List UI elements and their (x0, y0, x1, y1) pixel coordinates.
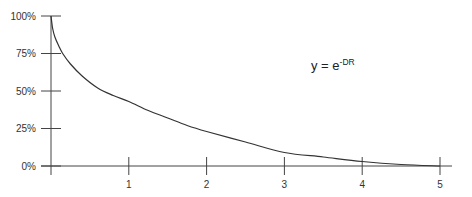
x-tick-label: 3 (282, 179, 288, 190)
x-tick-label: 1 (126, 179, 132, 190)
decay-curve (51, 16, 440, 166)
formula-base: y = e (311, 58, 340, 73)
y-tick-label: 50% (16, 86, 36, 97)
x-tick-label: 2 (204, 179, 210, 190)
y-tick-label: 0% (22, 161, 37, 172)
formula-annotation: y = e-DR (311, 57, 355, 73)
x-tick-label: 4 (359, 179, 365, 190)
x-tick-label: 5 (437, 179, 443, 190)
axes (41, 16, 452, 175)
ticks (41, 16, 440, 175)
formula-superscript: -DR (340, 57, 355, 67)
y-tick-label: 75% (16, 48, 36, 59)
y-tick-label: 100% (10, 11, 36, 22)
chart: 0%25%50%75%100%12345 y = e-DR (0, 0, 472, 197)
y-tick-label: 25% (16, 123, 36, 134)
